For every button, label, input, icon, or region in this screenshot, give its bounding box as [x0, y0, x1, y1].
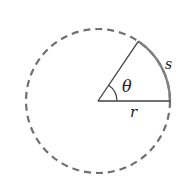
- radius-label: r: [130, 103, 138, 121]
- arc-length-label: s: [165, 56, 172, 72]
- sector-diagram: θ s r: [0, 0, 182, 184]
- radius-line-angled: [98, 41, 138, 101]
- angle-arc-icon: [109, 85, 117, 101]
- theta-label: θ: [122, 77, 132, 96]
